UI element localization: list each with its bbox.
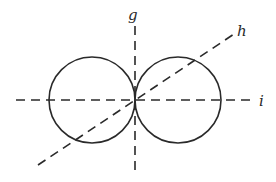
axis-i-label: i — [259, 92, 264, 110]
axis-h-label: h — [237, 22, 247, 40]
diagram-canvas: g h i — [0, 0, 276, 182]
right-circle — [135, 57, 221, 143]
axis-g-label: g — [128, 6, 138, 24]
